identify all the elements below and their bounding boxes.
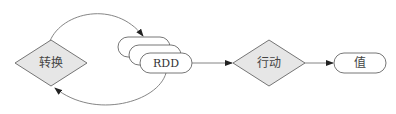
- rdd-flow-diagram: 转换 RDD 行动 值: [0, 0, 396, 114]
- action-label: 行动: [257, 56, 281, 70]
- action-node: 行动: [233, 40, 305, 86]
- rdd-label: RDD: [153, 57, 179, 70]
- rdd-node: RDD: [118, 37, 192, 73]
- edge-rdd-to-transform: [55, 73, 166, 105]
- transform-label: 转换: [39, 55, 63, 70]
- value-label: 值: [354, 55, 366, 70]
- value-node: 值: [334, 53, 386, 73]
- transform-node: 转换: [15, 40, 87, 86]
